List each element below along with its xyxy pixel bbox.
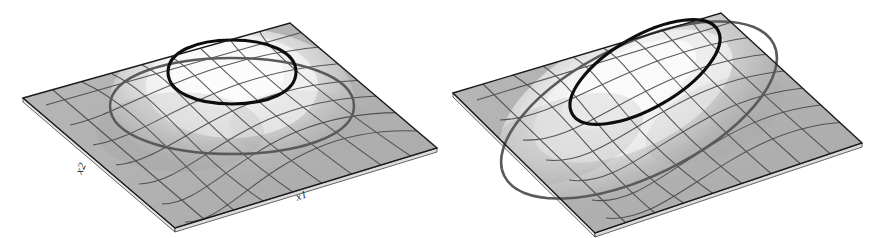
isotropic-gaussian-surface-plot: [0, 0, 443, 238]
panel-anisotropic-gaussian: x1 x2: [443, 0, 885, 238]
figure-two-surface-plots: x1 x2: [0, 0, 885, 238]
anisotropic-gaussian-surface-plot: [443, 0, 885, 238]
panel-isotropic-gaussian: x1 x2: [0, 0, 443, 238]
